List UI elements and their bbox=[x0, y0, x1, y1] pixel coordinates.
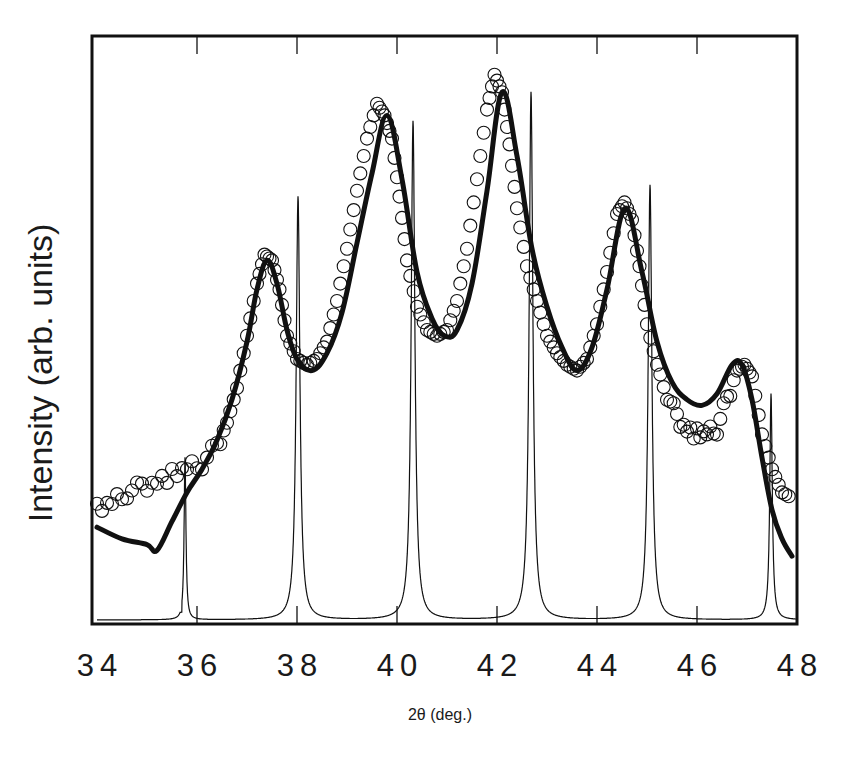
x-tick-label: 46 bbox=[677, 648, 723, 684]
x-tick-label: 44 bbox=[577, 648, 623, 684]
x-tick-label: 38 bbox=[277, 648, 323, 684]
y-axis-label: Intensity (arb. units) bbox=[21, 193, 60, 553]
x-tick-label: 40 bbox=[377, 648, 423, 684]
x-tick-label: 42 bbox=[477, 648, 523, 684]
axis-ticks bbox=[197, 36, 697, 624]
x-axis-label: 2θ (deg.) bbox=[0, 706, 862, 724]
x-tick-label: 36 bbox=[177, 648, 223, 684]
plot-frame bbox=[92, 36, 797, 624]
reference-pattern-line bbox=[97, 92, 797, 620]
measured-data-circles bbox=[91, 68, 796, 517]
diffraction-chart bbox=[0, 0, 862, 759]
x-tick-label: 34 bbox=[77, 648, 123, 684]
x-tick-label: 48 bbox=[777, 648, 823, 684]
